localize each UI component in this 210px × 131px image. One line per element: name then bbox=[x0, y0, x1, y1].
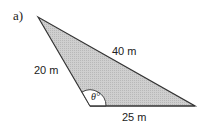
side-label-top: 40 m bbox=[112, 45, 136, 57]
side-label-bottom: 25 m bbox=[122, 111, 146, 123]
angle-label: θ° bbox=[91, 91, 100, 102]
triangle bbox=[38, 17, 195, 106]
triangle-figure bbox=[0, 0, 210, 131]
side-label-left: 20 m bbox=[34, 64, 58, 76]
